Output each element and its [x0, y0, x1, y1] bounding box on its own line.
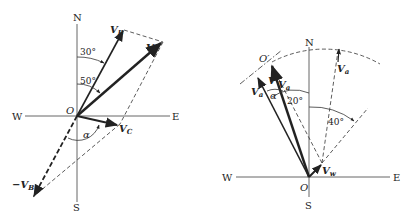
neg-vb-label: −VB — [12, 179, 34, 192]
vector-va-left — [258, 78, 309, 177]
diagram-canvas: N S W E O VB V VC −VB 30° 50° α N S W E — [0, 0, 412, 220]
origin-label: O — [300, 182, 308, 193]
left-velocity-diagram: N S W E O VB V VC −VB 30° 50° α — [12, 12, 179, 213]
west-label: W — [222, 172, 233, 183]
vb-label: VB — [110, 24, 124, 37]
vector-vb — [77, 31, 123, 116]
vector-va-top — [338, 49, 339, 62]
vw-label: Vw — [322, 165, 337, 178]
north-label: N — [73, 12, 82, 23]
va-left-label: Va — [251, 86, 264, 99]
angle-30-label: 30° — [80, 47, 96, 57]
east-label: E — [393, 172, 400, 183]
south-label: S — [73, 202, 80, 213]
va-top-label: Va — [337, 63, 350, 76]
north-label: N — [305, 37, 314, 48]
o-prime-label: O′ — [259, 53, 270, 64]
triangle-bottom-edge — [33, 124, 120, 197]
vector-neg-vb — [34, 116, 77, 196]
parallelogram-right-edge — [120, 42, 163, 124]
vector-vw — [309, 165, 321, 177]
parallelogram-top-edge — [124, 30, 163, 42]
v-label: V — [146, 42, 155, 53]
alpha-label: α — [270, 90, 277, 101]
vc-label: VC — [119, 123, 133, 136]
va-locus-arc — [272, 49, 380, 64]
v-label: V — [268, 75, 277, 86]
angle-40-label: 40° — [328, 117, 344, 127]
east-label: E — [172, 111, 179, 122]
vector-vc — [77, 116, 117, 125]
angle-20-label: 20° — [287, 96, 303, 106]
angle-50-label: 50° — [80, 76, 96, 86]
alpha-label: α — [83, 129, 90, 140]
right-velocity-diagram: N S W E O O′ Va Va V Va Vw 20° 40° α — [222, 37, 400, 211]
west-label: W — [12, 111, 23, 122]
south-label: S — [305, 200, 312, 211]
angle-arc-30 — [77, 57, 104, 63]
origin-label: O — [66, 105, 74, 116]
